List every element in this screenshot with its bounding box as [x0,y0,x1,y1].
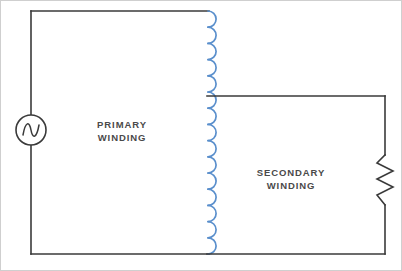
circuit-schematic-canvas [0,0,402,271]
image-frame [1,1,402,271]
primary-winding-label-line2: WINDING [62,131,182,144]
primary-winding-label-line1: PRIMARY [62,118,182,131]
secondary-winding-label: SECONDARY WINDING [228,166,354,192]
primary-winding-label: PRIMARY WINDING [62,118,182,144]
secondary-winding-label-line2: WINDING [228,179,354,192]
transformer-circuit-diagram: PRIMARY WINDING SECONDARY WINDING [0,0,402,271]
ac-source-icon [16,115,46,145]
secondary-winding-label-line1: SECONDARY [228,166,354,179]
